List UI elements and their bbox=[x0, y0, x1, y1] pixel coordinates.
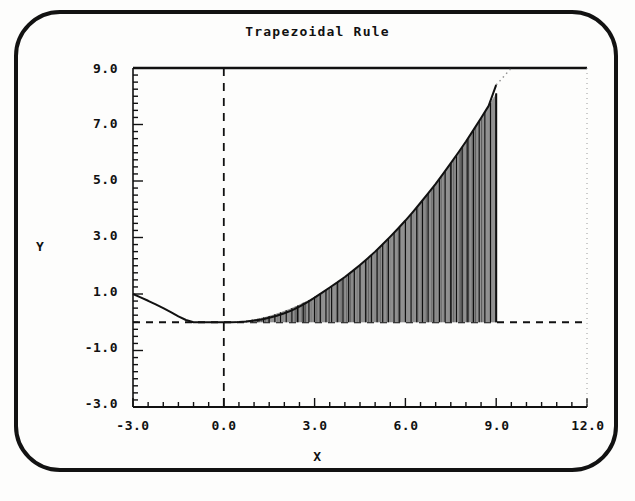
plot-area: Trapezoidal Rule Y X 9.0 7.0 5.0 3.0 1.0… bbox=[0, 0, 635, 501]
function-curve-extrapolated bbox=[496, 68, 511, 85]
axis-ticks bbox=[133, 68, 587, 407]
trapezoid-strips bbox=[224, 93, 496, 322]
axis-lines bbox=[133, 68, 587, 407]
plot-canvas bbox=[0, 0, 635, 501]
